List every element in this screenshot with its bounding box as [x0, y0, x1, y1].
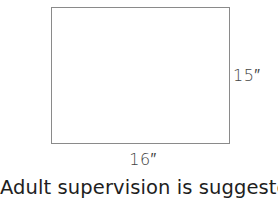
caption: Adult supervision is suggested	[0, 176, 278, 199]
width-label: 16″	[0, 150, 278, 169]
height-label: 15″	[233, 66, 261, 85]
rectangle-outline	[51, 7, 230, 144]
